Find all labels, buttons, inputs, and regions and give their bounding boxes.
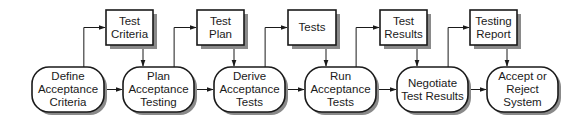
process-define bbox=[32, 67, 107, 115]
process-negotiate bbox=[397, 67, 471, 115]
process-derive bbox=[214, 67, 288, 115]
artifact-test-results bbox=[380, 10, 431, 49]
arrow-negotiate-to-testing-report bbox=[448, 28, 469, 68]
acceptance-testing-flow-diagram bbox=[0, 0, 585, 123]
process-accept bbox=[487, 67, 561, 115]
artifact-tests bbox=[288, 10, 340, 49]
arrow-derive-to-tests bbox=[265, 28, 287, 68]
shapes bbox=[32, 10, 561, 115]
artifact-test-plan bbox=[197, 10, 248, 49]
arrow-define-to-test-criteria bbox=[84, 28, 105, 68]
arrow-run-to-test-results bbox=[356, 28, 379, 68]
artifact-test-criteria bbox=[106, 10, 157, 49]
process-run bbox=[305, 67, 379, 115]
process-plan bbox=[123, 67, 197, 115]
arrow-plan-to-test-plan bbox=[174, 28, 196, 68]
artifact-testing-report bbox=[470, 10, 521, 49]
